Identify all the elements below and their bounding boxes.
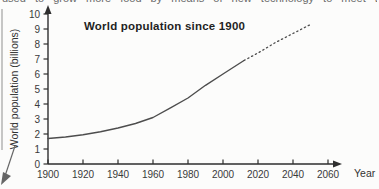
y-axis-arrowhead [45, 5, 52, 14]
y-tick-label: 6 [34, 69, 40, 80]
y-tick-label: 7 [34, 54, 40, 65]
x-axis-arrowhead [333, 161, 342, 168]
x-tick-label: 2060 [317, 169, 340, 180]
y-tick-label: 4 [34, 99, 40, 110]
corner-arrow-head [1, 172, 11, 185]
y-tick-label: 1 [34, 144, 40, 155]
population-chart: 0123456789101900192019401960198020002020… [0, 0, 379, 189]
corner-arrow-shaft [5, 146, 15, 176]
x-tick-label: 1940 [107, 169, 130, 180]
population-observed-solid-line [48, 61, 244, 139]
x-tick-label: 1980 [177, 169, 200, 180]
x-tick-label: 2000 [212, 169, 235, 180]
chart-screenshot: { "page": { "background": "#fcfcfb", "to… [0, 0, 379, 189]
x-tick-label: 2040 [282, 169, 305, 180]
y-tick-label: 8 [34, 39, 40, 50]
y-tick-label: 10 [29, 9, 41, 20]
x-tick-label: 1900 [37, 169, 60, 180]
population-projection-dotted-line [244, 25, 311, 61]
y-tick-label: 0 [34, 159, 40, 170]
y-tick-label: 5 [34, 84, 40, 95]
x-tick-label: 2020 [247, 169, 270, 180]
x-tick-label: 1920 [72, 169, 95, 180]
x-tick-label: 1960 [142, 169, 165, 180]
y-tick-label: 2 [34, 129, 40, 140]
y-tick-label: 3 [34, 114, 40, 125]
y-tick-label: 9 [34, 24, 40, 35]
